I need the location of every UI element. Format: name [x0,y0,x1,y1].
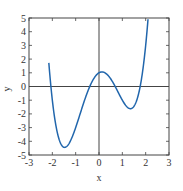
zero-lines [29,18,169,155]
chart-plot: -3-2-10123-5-4-3-2-1012345 x y [0,0,183,191]
y-tick-label: -1 [18,95,26,106]
y-tick-label: 2 [21,54,26,65]
y-tick-label: 4 [21,26,26,37]
data-curve [49,19,148,147]
y-tick-label: -3 [18,122,26,133]
y-tick-label: 1 [21,67,26,78]
x-tick-label: -3 [25,157,33,168]
x-tick-label: 3 [167,157,172,168]
y-axis-label: y [1,87,12,92]
x-tick-label: 2 [143,157,148,168]
y-tick-label: -5 [18,150,26,161]
x-axis-label: x [97,172,102,183]
series-line [49,19,148,147]
y-tick-label: 3 [21,40,26,51]
axis-ticks: -3-2-10123-5-4-3-2-1012345 [18,13,172,169]
x-tick-label: 1 [120,157,125,168]
y-tick-label: 5 [21,13,26,24]
x-tick-label: 0 [97,157,102,168]
x-tick-label: -2 [48,157,56,168]
y-tick-label: 0 [21,81,26,92]
x-tick-label: -1 [71,157,79,168]
y-tick-label: -4 [18,136,26,147]
y-tick-label: -2 [18,108,26,119]
